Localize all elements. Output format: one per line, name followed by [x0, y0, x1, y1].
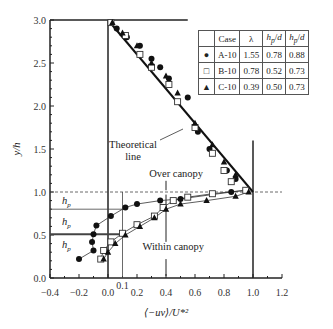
- open-square-marker: [175, 99, 181, 105]
- open-square-marker: [221, 168, 227, 174]
- over-canopy-label: Over canopy: [149, 168, 204, 179]
- open-square-marker: [137, 51, 143, 57]
- y-tick-label: 2.0: [34, 101, 47, 112]
- filled-triangle-marker: [163, 72, 169, 78]
- filled-circle-marker: [157, 198, 163, 204]
- x-tick-label: 0.2: [131, 287, 144, 298]
- x-tick-label: −0.4: [41, 287, 59, 298]
- theoretical-pointer: [160, 129, 183, 140]
- filled-triangle-icon: ▲: [199, 79, 215, 95]
- x-tick-label: −0.2: [70, 287, 88, 298]
- legend-hp2: 0.88: [285, 47, 308, 63]
- y-axis-label: y/h: [11, 143, 22, 157]
- legend-hp2: 0.73: [285, 79, 308, 95]
- x-tick-label: 1.2: [276, 287, 289, 298]
- filled-circle-icon: ●: [199, 47, 215, 63]
- legend-header-case: Case: [214, 31, 240, 47]
- open-square-marker: [108, 239, 114, 245]
- within-canopy-label: Within canopy: [142, 241, 204, 252]
- x-tick-label: 0.0: [102, 287, 115, 298]
- x-tick-label: 1.0: [247, 287, 260, 298]
- hp-label: hp: [62, 216, 71, 230]
- legend-hp1: 0.50: [263, 79, 286, 95]
- legend-header-marker: [199, 31, 215, 47]
- legend-lambda: 0.39: [240, 79, 263, 95]
- theoretical-label-1: Theoretical: [109, 139, 157, 150]
- hp-label: hp: [62, 195, 71, 209]
- open-square-marker: [166, 82, 172, 88]
- y-tick-label: 0.0: [34, 273, 47, 284]
- open-square-marker: [170, 198, 176, 204]
- open-square-marker: [185, 194, 191, 200]
- filled-circle-marker: [89, 239, 95, 245]
- legend-header-hp1: hp/d: [263, 31, 286, 47]
- filled-circle-marker: [108, 213, 114, 219]
- x-tick-label: 0.4: [160, 287, 173, 298]
- open-square-marker: [209, 150, 215, 156]
- filled-circle-marker: [114, 26, 120, 32]
- x-axis-label: ⟨−uv⟩/U*²: [144, 307, 189, 318]
- filled-circle-marker: [122, 204, 128, 210]
- open-square-marker: [228, 179, 234, 185]
- theoretical-label-2: line: [125, 151, 141, 162]
- x-tick-label: 0.6: [189, 287, 202, 298]
- legend-header-row: Case λ hp/d hp/d: [199, 31, 309, 47]
- legend-row: ● A-10 1.55 0.78 0.88: [199, 47, 309, 63]
- y-tick-label: 1.5: [34, 144, 47, 155]
- legend-case: A-10: [214, 47, 240, 63]
- filled-circle-marker: [228, 189, 234, 195]
- filled-circle-marker: [76, 256, 82, 262]
- legend-case: C-10: [214, 79, 240, 95]
- filled-triangle-marker: [174, 90, 180, 96]
- legend-row: ▲ C-10 0.39 0.50 0.73: [199, 79, 309, 95]
- open-square-icon: □: [199, 63, 215, 79]
- x-tick-label: 0.8: [218, 287, 231, 298]
- legend-table: Case λ hp/d hp/d ● A-10 1.55 0.78 0.88 □…: [198, 30, 309, 95]
- filled-circle-marker: [91, 247, 97, 253]
- y-tick-label: 0.5: [34, 230, 47, 241]
- open-square-marker: [101, 247, 107, 253]
- hp-label: hp: [62, 239, 71, 253]
- legend-hp2: 0.73: [285, 63, 308, 79]
- legend-lambda: 1.55: [240, 47, 263, 63]
- y-tick-label: 1.0: [34, 187, 47, 198]
- filled-circle-marker: [134, 201, 140, 207]
- legend-header-lambda: λ: [240, 31, 263, 47]
- filled-circle-marker: [93, 223, 99, 229]
- y-tick-label: 2.5: [34, 58, 47, 69]
- x-tick-label-extra: 0.1: [116, 280, 129, 291]
- legend-row: □ B-10 0.78 0.52 0.73: [199, 63, 309, 79]
- legend-header-hp2: hp/d: [285, 31, 308, 47]
- legend-hp1: 0.52: [263, 63, 286, 79]
- filled-circle-marker: [91, 231, 97, 237]
- y-tick-label: 3.0: [34, 15, 47, 26]
- filled-circle-marker: [185, 94, 191, 100]
- legend-hp1: 0.78: [263, 47, 286, 63]
- legend-case: B-10: [214, 63, 240, 79]
- legend-lambda: 0.78: [240, 63, 263, 79]
- open-square-marker: [209, 191, 215, 197]
- filled-circle-marker: [157, 64, 163, 70]
